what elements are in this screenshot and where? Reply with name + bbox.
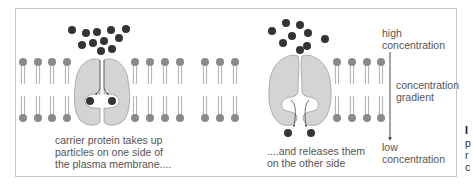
gradient-label-line2: gradient: [396, 91, 434, 104]
particle-outside: [282, 19, 290, 27]
phospholipid: [348, 58, 356, 122]
low-concentration-line2: concentration: [382, 153, 445, 166]
particle-outside: [107, 26, 115, 34]
carrier-protein-open-outside: [74, 59, 129, 125]
carrier-protein-diagram: carrier protein takes up particles on on…: [0, 0, 473, 185]
particle-outside: [296, 46, 304, 54]
clipped-caption-heading: I: [465, 124, 468, 137]
phospholipid: [363, 58, 371, 122]
phospholipid: [333, 58, 341, 122]
particle-outside: [303, 42, 311, 50]
particle-outside: [82, 29, 90, 37]
low-concentration-line1: low: [382, 141, 398, 154]
particle-outside: [288, 32, 296, 40]
particle-outside: [268, 27, 276, 35]
right-caption-line1: ....and releases them: [267, 145, 365, 158]
particle-outside: [93, 28, 101, 36]
high-concentration-line2: concentration: [382, 39, 445, 52]
particle-bound: [108, 97, 116, 105]
high-concentration-line1: high: [382, 27, 402, 40]
particle-outside: [122, 25, 130, 33]
particle-outside: [296, 21, 304, 29]
particle-outside: [115, 34, 123, 42]
particle-released: [307, 129, 315, 137]
phospholipid: [216, 58, 224, 122]
particle-outside: [68, 26, 76, 34]
particle-outside: [100, 37, 108, 45]
particle-released: [284, 129, 292, 137]
phospholipid: [48, 58, 56, 122]
phospholipid: [63, 58, 71, 122]
phospholipid: [161, 58, 169, 122]
phospholipid: [131, 58, 139, 122]
phospholipid: [146, 58, 154, 122]
particle-outside: [321, 35, 329, 43]
particle-outside: [97, 47, 105, 55]
particle-bound: [86, 97, 94, 105]
left-caption-line3: the plasma membrane....: [55, 158, 171, 171]
particle-outside: [304, 29, 312, 37]
particle-outside: [279, 39, 287, 47]
left-caption-line2: particles on one side of: [55, 146, 163, 159]
clipped-caption-line1: p: [465, 137, 471, 150]
particle-outside: [89, 39, 97, 47]
phospholipid: [231, 58, 239, 122]
particle-outside: [78, 41, 86, 49]
phospholipid: [19, 58, 27, 122]
clipped-caption-line2: r: [465, 149, 469, 162]
phospholipid: [34, 58, 42, 122]
gradient-label-line1: concentration: [396, 79, 459, 92]
particle-outside: [108, 45, 116, 53]
clipped-caption-line3: c: [465, 161, 470, 174]
carrier-protein-open-inside: [269, 55, 331, 126]
left-caption-line1: carrier protein takes up: [55, 134, 162, 147]
phospholipid: [176, 58, 184, 122]
phospholipid: [201, 58, 209, 122]
phospholipid: [377, 58, 385, 122]
right-caption-line2: on the other side: [267, 157, 345, 170]
